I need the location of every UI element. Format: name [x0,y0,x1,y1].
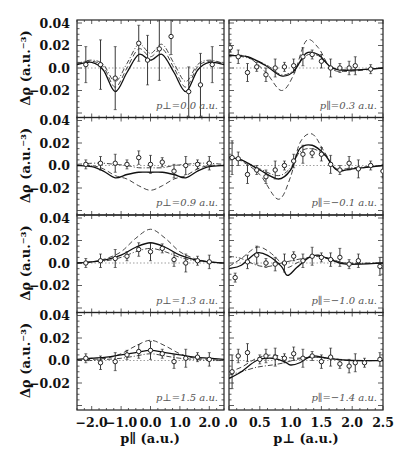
solid-curve [229,52,383,76]
y-axis-titles: Δρ (a.u.⁻³)Δρ (a.u.⁻³)Δρ (a.u.⁻³)Δρ (a.u… [18,30,33,398]
dashed-curve [229,134,383,200]
data-point [172,355,176,369]
data-point [328,253,332,267]
data-point [310,50,314,59]
x-tick-label: 1.0 [280,415,302,430]
panel-label: p∥=0.3 a.u. [320,100,377,111]
y-axis-title: Δρ (a.u.⁻³) [18,30,33,105]
data-point [347,260,351,269]
data-point [195,160,199,169]
y-axis-title: Δρ (a.u.⁻³) [18,323,33,398]
dashdot-curve [229,357,383,375]
data-point [310,149,314,158]
y-tick-label: 0.0 [48,256,70,271]
x-tick-label: 0.0 [140,415,162,430]
y-tick-label: 0.04 [40,308,71,323]
data-point [282,161,286,170]
data-point [245,64,249,82]
data-point [328,155,332,173]
data-point [378,257,382,275]
x-tick-label: −1.0 [105,415,138,430]
data-point [368,65,372,74]
dashdot-curve [229,148,383,175]
data-point [160,349,164,358]
data-point [273,161,277,179]
x-tick-label: 1.0 [169,415,191,430]
data-point [301,254,305,268]
solid-curve [229,356,383,379]
data-point [157,17,161,80]
x-tick-label: 2.0 [198,415,220,430]
data-point [184,157,188,175]
panel-R4: p∥=−1.4 a.u. [229,313,383,411]
data-point [172,253,176,267]
data-point [207,353,211,367]
data-point [230,355,234,389]
data-point [184,349,188,367]
data-point [310,352,314,361]
data-point [84,47,88,83]
x-tick-label: .0 [224,415,237,430]
data-point [113,154,117,172]
data-point [310,247,314,265]
y-tick-label: 0.02 [40,136,70,151]
data-point [125,160,129,169]
data-point [137,151,141,165]
data-point [145,35,149,85]
data-point [264,68,268,82]
data-point [282,62,286,71]
data-point [291,252,295,261]
panel-label: p⊥=1.3 a.u. [156,295,218,306]
data-point [356,160,360,178]
y-tick-label: −0.02 [29,83,70,98]
data-point [255,246,259,264]
panels-group: p⊥=0.0 a.u.p∥=0.3 a.u.p⊥=0.9 a.u.p∥=−0.1… [77,17,385,410]
x-tick-label: 0.5 [249,415,271,430]
panel-L4: p⊥=1.5 a.u. [77,313,224,411]
panel-R1: p∥=0.3 a.u. [228,20,383,118]
data-point [245,255,249,269]
x-tick-label: 2.0 [341,415,363,430]
panel-label: p⊥=0.9 a.u. [156,197,218,208]
y-tick-label: 0.02 [40,38,70,53]
data-point [233,273,237,282]
y-tick-label: 0.04 [40,16,71,31]
data-point [353,57,357,75]
panel-label: p⊥=0.0 a.u. [156,100,218,111]
y-tick-label: 0.02 [40,331,70,346]
panel-L3: p⊥=1.3 a.u. [77,215,224,313]
data-point [113,250,117,268]
data-point [207,157,211,171]
dashdot-curve [229,54,383,75]
data-point [195,256,199,265]
data-point [328,59,332,77]
panel-R2: p∥=−0.1 a.u. [229,118,385,216]
x-axis-title-left: p∥ (a.u.) [120,431,180,446]
data-point [381,164,385,178]
data-point [172,164,176,178]
data-point [160,158,164,167]
y-tick-label: 0.04 [40,211,71,226]
panel-label: p∥=−1.4 a.u. [311,392,377,403]
panel-label: p∥=−1.0 a.u. [311,295,377,306]
x-axis-title-right: p⊥ (a.u.) [273,431,338,446]
data-point [273,348,277,366]
data-point [368,161,372,170]
data-point [328,348,332,366]
data-point [362,358,366,367]
data-point [148,155,152,173]
data-point [236,152,240,166]
panel-label: p∥=−0.1 a.u. [311,197,377,208]
data-point [148,243,152,261]
y-axis-title: Δρ (a.u.⁻³) [18,225,33,300]
data-point [245,166,249,184]
data-point [210,47,214,83]
data-point [148,341,152,359]
y-tick-label: 0.0 [48,61,70,76]
data-point [356,254,360,268]
data-point [347,359,351,373]
figure: p⊥=0.0 a.u.p∥=0.3 a.u.p⊥=0.9 a.u.p∥=−0.1… [0,0,408,460]
panel-L2: p⊥=0.9 a.u. [77,118,224,216]
dashed-curve [229,40,383,91]
data-point [338,166,342,175]
